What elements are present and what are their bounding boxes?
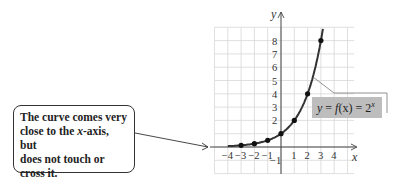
data-point (252, 141, 257, 146)
svg-text:2: 2 (305, 150, 310, 161)
data-point (239, 143, 244, 148)
callout-arrow (135, 133, 208, 150)
data-point (305, 91, 310, 96)
exponential-chart: y x −4−3−2−11234−12345678 y = f(x) = 2x (0, 0, 400, 187)
function-label: y = f(x) = 2x (312, 97, 382, 118)
data-point (265, 138, 270, 143)
svg-text:8: 8 (272, 36, 277, 47)
svg-text:−1: −1 (270, 155, 281, 166)
svg-text:−3: −3 (235, 150, 246, 161)
svg-text:−2: −2 (248, 150, 259, 161)
svg-text:4: 4 (272, 89, 278, 100)
svg-text:y = f(x) = 2x: y = f(x) = 2x (316, 100, 375, 115)
svg-text:3: 3 (318, 150, 323, 161)
data-point (278, 131, 283, 136)
x-axis-label: x (351, 150, 358, 164)
svg-text:3: 3 (272, 102, 277, 113)
data-point (292, 118, 297, 123)
svg-text:−4: −4 (222, 150, 234, 161)
data-point (318, 38, 323, 43)
svg-text:7: 7 (272, 49, 277, 60)
svg-text:6: 6 (272, 62, 277, 73)
svg-text:5: 5 (272, 76, 277, 87)
svg-text:4: 4 (331, 150, 337, 161)
y-axis-label: y (270, 7, 277, 21)
svg-text:2: 2 (272, 115, 277, 126)
svg-text:1: 1 (291, 150, 296, 161)
